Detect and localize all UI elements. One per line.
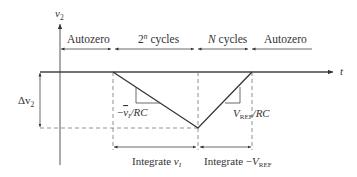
integrate-vref-label: Integrate −VREF [204,155,272,169]
phase-label-n-cycles: N cycles [207,33,248,46]
phase-label-2n-cycles: 2n cycles [138,32,180,46]
integrator-waveform [113,72,252,128]
t-axis-label: t [340,65,344,77]
phase-label-autozero-2: Autozero [264,33,307,45]
t-axis: t [40,65,344,77]
y-axis-label: v2 [55,7,64,22]
dual-slope-integration-diagram: v2 Autozero 2n cycles N cycles Autozero … [0,0,357,177]
phase-label-autozero-1: Autozero [67,33,110,45]
y-axis: v2 [55,7,64,165]
slope-label-down: −vI/RC [117,106,148,120]
delta-v2-label: Δv2 [18,94,35,109]
slope-triangle-up [225,87,240,103]
slope-label-up: VREF/RC [233,107,270,121]
integrate-vi-label: Integrate vI [132,155,182,169]
